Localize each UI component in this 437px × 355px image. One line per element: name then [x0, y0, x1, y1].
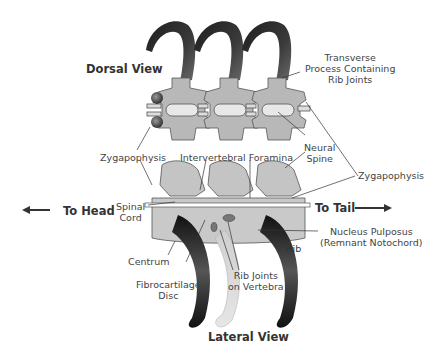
rib-joint [211, 223, 217, 232]
spinal-cord [145, 203, 310, 207]
arrow-right-icon [355, 204, 392, 212]
rib-joint [223, 215, 235, 222]
nucleus-pulposus-label: Nucleus Pulposus (Remnant Notochord) [320, 226, 423, 248]
rib-joints-label: Rib Joints on Vertebra [228, 270, 284, 292]
zygapophysis-knob [151, 92, 163, 104]
centrum-label: Centrum [128, 256, 169, 267]
dorsal-ribs [146, 21, 291, 82]
zygapophysis-left-label: Zygapophysis [100, 152, 166, 163]
dorsal-vertebrae [147, 78, 310, 140]
zygapophysis-right-label: Zygapophysis [358, 170, 424, 181]
zygapophysis-knob [151, 116, 163, 128]
rib-label: Rib [286, 243, 301, 254]
spinal-cord-label: Spinal Cord [116, 201, 145, 223]
neural-spine-label: Neural Spine [304, 142, 335, 164]
transverse-process-label: Transverse Process Containing Rib Joints [305, 52, 395, 85]
lateral-view-title: Lateral View [208, 330, 289, 344]
fibrocartilage-disc-label: Fibrocartilage Disc [136, 279, 201, 301]
arrow-left-icon [22, 206, 50, 214]
to-tail-label: To Tail [315, 201, 355, 215]
to-head-label: To Head [63, 204, 115, 218]
dorsal-view-title: Dorsal View [86, 62, 163, 76]
intervertebral-foramina-label: Intervertebral Foramina [180, 152, 293, 163]
